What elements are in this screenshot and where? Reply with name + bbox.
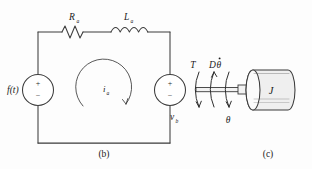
figure-canvas: + − + − R a L a f(t) v b i a (b) — [0, 0, 312, 169]
figure-root: + − + − R a L a f(t) v b i a (b) — [0, 0, 312, 169]
resistor-label-subscript: a — [77, 18, 80, 24]
source-right-minus-sign: − — [168, 91, 173, 100]
damping-label-theta: θ — [217, 60, 222, 70]
torque-label: T — [190, 60, 196, 70]
source-right-plus-sign: + — [168, 79, 173, 88]
inductor-label-symbol: L — [123, 12, 129, 22]
inductor-label-subscript: a — [131, 18, 134, 24]
loop-current-label-subscript: a — [107, 90, 110, 96]
source-left-plus-sign: + — [36, 79, 41, 88]
resistor-label-symbol: R — [68, 12, 75, 22]
source-left-label: f(t) — [7, 85, 19, 96]
damping-label-symbol: D — [208, 60, 216, 70]
caption-panel-c: (c) — [263, 149, 274, 160]
source-right-label-subscript: b — [176, 118, 179, 124]
inductor-symbol — [111, 28, 148, 33]
panel-c-mechanical: T D θ θ J (c) — [190, 57, 295, 160]
loop-current-arc — [76, 59, 132, 106]
caption-panel-b: (b) — [98, 149, 109, 160]
damping-dot-accent — [219, 57, 221, 59]
resistor-symbol — [62, 26, 83, 38]
rotor-cylinder-face — [246, 70, 260, 110]
torque-arc-2-arrowhead — [212, 72, 217, 77]
source-right-label-symbol: v — [170, 112, 175, 122]
shaft — [196, 88, 244, 92]
panel-b-circuit: + − + − R a L a f(t) v b i a (b) — [7, 12, 186, 160]
angle-label: θ — [226, 115, 231, 125]
source-left-minus-sign: − — [36, 91, 41, 100]
